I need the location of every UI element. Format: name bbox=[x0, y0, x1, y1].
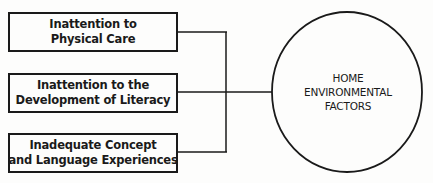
factor-label-line2: Physical Care bbox=[51, 32, 136, 47]
central-label-line2: ENVIRONMENTAL bbox=[304, 85, 392, 99]
factor-label-line2: Development of Literacy bbox=[16, 93, 171, 108]
factor-box-language: Inadequate Concept and Language Experien… bbox=[8, 133, 178, 173]
factor-box-literacy: Inattention to the Development of Litera… bbox=[8, 73, 178, 113]
factor-label-line1: Inadequate Concept bbox=[29, 138, 156, 153]
factor-label-line1: Inattention to bbox=[49, 17, 136, 32]
central-label-line3: FACTORS bbox=[325, 99, 372, 113]
factor-label-line1: Inattention to the bbox=[37, 78, 149, 93]
central-label-line1: HOME bbox=[332, 71, 363, 85]
factor-label-line2: and Language Experiences bbox=[8, 153, 177, 168]
factor-box-physical-care: Inattention to Physical Care bbox=[8, 12, 178, 52]
central-node-label: HOME ENVIRONMENTAL FACTORS bbox=[272, 12, 424, 172]
